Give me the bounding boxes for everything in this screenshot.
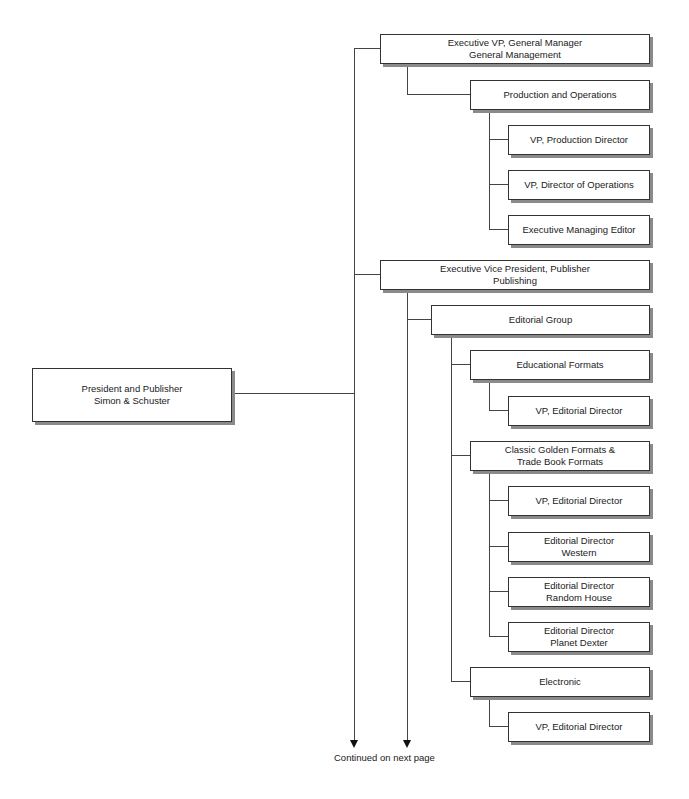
connector — [489, 109, 490, 229]
box-title: Editorial Director — [544, 580, 614, 592]
connector — [489, 546, 508, 547]
connector — [489, 410, 508, 411]
box-title: Electronic — [539, 676, 581, 688]
box-title: Classic Golden Formats & — [505, 444, 615, 456]
org-box-educational-formats: Educational Formats — [470, 350, 650, 380]
down-arrow-icon — [350, 740, 358, 748]
connector — [489, 379, 490, 410]
box-subtitle: Trade Book Formats — [517, 456, 603, 468]
connector — [489, 636, 508, 637]
box-title: Editorial Group — [509, 314, 572, 326]
org-box-planet-dexter: Editorial Director Planet Dexter — [508, 622, 650, 652]
box-subtitle: Simon & Schuster — [94, 395, 170, 407]
down-arrow-icon — [403, 740, 411, 748]
connector — [407, 319, 431, 320]
connector — [451, 455, 470, 456]
box-title: VP, Director of Operations — [524, 179, 634, 191]
org-box-general-manager: Executive VP, General Manager General Ma… — [380, 34, 650, 64]
connector — [231, 393, 354, 394]
connector — [489, 184, 508, 185]
org-box-classic-vp-editorial: VP, Editorial Director — [508, 486, 650, 516]
org-box-western: Editorial Director Western — [508, 532, 650, 562]
box-subtitle: Publishing — [493, 275, 537, 287]
connector — [354, 48, 355, 740]
box-title: Production and Operations — [503, 89, 616, 101]
connector — [354, 48, 380, 49]
org-box-random-house: Editorial Director Random House — [508, 577, 650, 607]
org-box-production-operations: Production and Operations — [470, 80, 650, 110]
org-box-classic-golden: Classic Golden Formats & Trade Book Form… — [470, 441, 650, 471]
box-subtitle: Planet Dexter — [550, 637, 608, 649]
box-subtitle: Western — [561, 547, 596, 559]
box-title: Editorial Director — [544, 625, 614, 637]
connector — [489, 696, 490, 726]
org-box-vp-production: VP, Production Director — [508, 125, 650, 155]
org-box-edu-vp-editorial: VP, Editorial Director — [508, 396, 650, 426]
box-subtitle: Random House — [546, 592, 612, 604]
box-subtitle: General Management — [469, 49, 561, 61]
box-title: Editorial Director — [544, 535, 614, 547]
continued-note: Continued on next page — [334, 752, 435, 763]
connector — [489, 500, 508, 501]
connector — [489, 229, 508, 230]
box-title: VP, Editorial Director — [536, 405, 623, 417]
connector — [451, 364, 470, 365]
org-box-elec-vp-editorial: VP, Editorial Director — [508, 712, 650, 742]
org-box-vp-operations: VP, Director of Operations — [508, 170, 650, 200]
box-title: Educational Formats — [516, 359, 603, 371]
connector — [489, 139, 508, 140]
connector — [407, 289, 408, 740]
connector — [407, 94, 470, 95]
org-box-electronic: Electronic — [470, 667, 650, 697]
box-title: President and Publisher — [82, 383, 183, 395]
org-box-exec-managing-editor: Executive Managing Editor — [508, 215, 650, 245]
connector — [489, 470, 490, 636]
box-title: Executive VP, General Manager — [448, 37, 582, 49]
box-title: VP, Editorial Director — [536, 495, 623, 507]
box-title: VP, Editorial Director — [536, 721, 623, 733]
org-box-president: President and Publisher Simon & Schuster — [32, 368, 232, 422]
org-box-editorial-group: Editorial Group — [431, 305, 650, 335]
box-title: Executive Vice President, Publisher — [440, 263, 590, 275]
box-title: Executive Managing Editor — [522, 224, 635, 236]
connector — [489, 726, 508, 727]
connector — [451, 681, 470, 682]
connector — [407, 63, 408, 94]
connector — [451, 334, 452, 682]
org-box-publisher: Executive Vice President, Publisher Publ… — [380, 260, 650, 290]
connector — [489, 591, 508, 592]
connector — [354, 274, 380, 275]
box-title: VP, Production Director — [530, 134, 628, 146]
